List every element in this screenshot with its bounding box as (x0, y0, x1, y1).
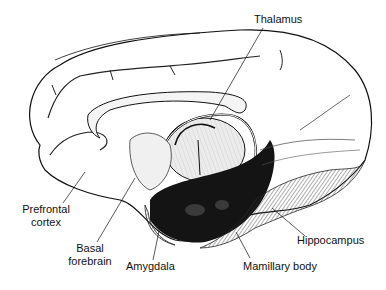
label-thalamus: Thalamus (254, 13, 302, 26)
label-prefrontal-line1: Prefrontal (14, 203, 78, 216)
label-basal-forebrain: Basal forebrain (62, 242, 118, 268)
label-prefrontal-cortex: Prefrontal cortex (14, 203, 78, 229)
leader-mamillary (236, 232, 250, 258)
label-amygdala: Amygdala (126, 260, 175, 273)
label-basal-line2: forebrain (62, 255, 118, 268)
label-basal-line1: Basal (62, 242, 118, 255)
label-prefrontal-line2: cortex (14, 216, 78, 229)
label-hippocampus: Hippocampus (297, 234, 364, 247)
label-mamillary-body: Mamillary body (243, 260, 317, 273)
